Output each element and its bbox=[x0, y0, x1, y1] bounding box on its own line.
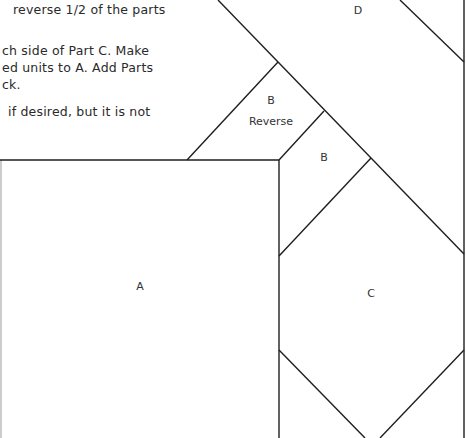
piece-b-label: B bbox=[320, 151, 328, 164]
pattern-diagram bbox=[0, 0, 466, 438]
c-upper-left-edge bbox=[279, 158, 371, 256]
quilt-pattern-page: reverse 1/2 of the parts ch side of Part… bbox=[0, 0, 466, 438]
b-reverse-left-edge bbox=[187, 62, 278, 160]
piece-b-reverse-sublabel: Reverse bbox=[249, 115, 293, 128]
piece-d-label: D bbox=[354, 4, 362, 17]
piece-b-reverse-label: B bbox=[267, 94, 275, 107]
c-lower-left-edge bbox=[279, 350, 365, 438]
piece-c-label: C bbox=[367, 287, 375, 300]
c-lower-right-edge bbox=[380, 350, 464, 438]
piece-a-label: A bbox=[136, 280, 144, 293]
d-corner-diagonal bbox=[400, 0, 464, 62]
